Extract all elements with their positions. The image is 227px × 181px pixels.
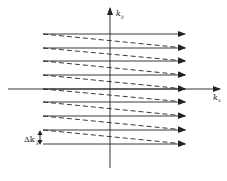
dashed-blip-line — [43, 48, 185, 61]
dashed-blip-line — [43, 89, 185, 102]
dashed-blip-line — [43, 61, 185, 75]
dashed-blip-line — [43, 116, 185, 130]
delta-ky-label: Δk — [24, 135, 35, 144]
dashed-blip-line — [43, 130, 185, 144]
dashed-blip-line — [43, 102, 185, 116]
readout-lines — [43, 34, 185, 144]
k-space-trajectory-diagram: k y k x Δk y — [0, 0, 227, 181]
dashed-blip-line — [43, 34, 185, 48]
kx-subscript: x — [218, 97, 221, 103]
ky-subscript: y — [120, 13, 124, 20]
dashed-blip-line — [43, 75, 185, 89]
